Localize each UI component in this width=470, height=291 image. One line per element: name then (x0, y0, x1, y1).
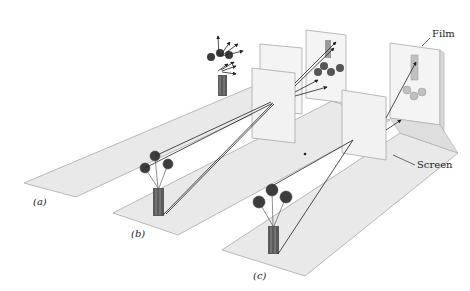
film-label: Film (432, 28, 455, 39)
panel-b-label: (b) (131, 228, 145, 239)
film-c-side (440, 50, 444, 133)
screen-c (342, 90, 386, 160)
screen-b (252, 68, 295, 143)
vase-c (268, 226, 279, 254)
film-leader (422, 38, 430, 46)
pinhole-camera-diagram (0, 0, 470, 291)
vase-a (218, 75, 227, 96)
vase-b (153, 188, 164, 216)
flowers-a (207, 49, 233, 61)
screen-label: Screen (417, 159, 453, 170)
panel-c-label: (c) (253, 270, 266, 281)
panel-a-label: (a) (33, 196, 47, 207)
pinhole (304, 153, 307, 156)
